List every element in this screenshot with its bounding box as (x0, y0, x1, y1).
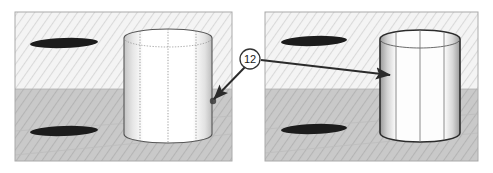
callout-label: 12 (244, 53, 256, 65)
callout-marker-12[interactable]: 12 (240, 49, 260, 69)
left-panel (15, 12, 232, 161)
technical-illustration: 12 (0, 0, 493, 173)
figure-container: 12 (0, 0, 493, 173)
left-cylinder (124, 29, 212, 143)
right-cylinder (380, 30, 460, 142)
right-panel (265, 12, 478, 161)
